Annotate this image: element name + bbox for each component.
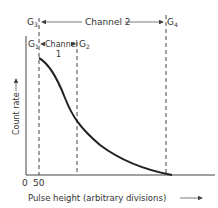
channel1-number: 1 [56, 50, 61, 59]
x-tick-0: 0 [22, 178, 28, 188]
channel2-label: Channel 2 [85, 17, 131, 27]
y-axis-label: Count rate [12, 92, 21, 135]
x-axis-label: Pulse height (arbitrary divisions) [28, 193, 166, 203]
x-tick-50: 50 [33, 178, 45, 188]
channel1-label: Channel [45, 40, 78, 49]
count-rate-curve [39, 58, 172, 175]
gate-g2-label: G2 [79, 39, 90, 50]
gate-g4-label: G4 [167, 17, 178, 28]
gate-g1-label: G1 [28, 39, 39, 50]
pulse-height-diagram: G3 G4 G1 G2 Channel 2 Channel 1 Count ra… [0, 0, 218, 208]
gate-g3-label: G3 [27, 17, 38, 28]
